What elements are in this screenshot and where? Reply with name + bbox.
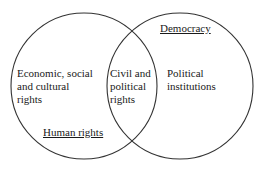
left-region-line: rights [17, 93, 93, 106]
overlap-region-line: rights [110, 93, 151, 106]
democracy-title: Democracy [160, 22, 211, 35]
left-region-text: Economic, social and cultural rights [17, 67, 93, 106]
left-region-line: and cultural [17, 80, 93, 93]
right-region-text: Political institutions [167, 67, 216, 93]
overlap-region-line: political [110, 80, 151, 93]
overlap-region-text: Civil and political rights [110, 67, 151, 106]
left-region-line: Economic, social [17, 67, 93, 80]
overlap-region-line: Civil and [110, 67, 151, 80]
human-rights-title: Human rights [43, 126, 103, 139]
right-region-line: Political [167, 67, 216, 80]
venn-diagram: Democracy Economic, social and cultural … [0, 0, 260, 169]
right-region-line: institutions [167, 80, 216, 93]
